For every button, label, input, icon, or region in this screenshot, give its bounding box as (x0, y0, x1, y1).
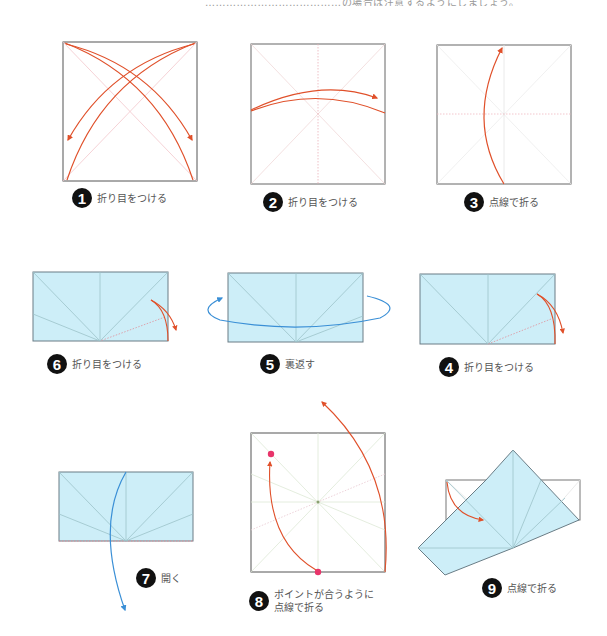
step-9-label: 9 点線で折る (482, 578, 557, 598)
step-2-label: 2 折り目をつける (263, 192, 358, 212)
step-caption: 折り目をつける (288, 196, 358, 209)
step-caption-line2: 点線で折る (274, 601, 374, 614)
step-badge: 4 (439, 357, 459, 377)
step-badge: 8 (249, 591, 269, 611)
step-8-diagram (251, 402, 386, 575)
step-9-diagram (418, 450, 580, 575)
step-caption: 折り目をつける (72, 358, 142, 371)
step-badge: 3 (464, 192, 484, 212)
step-5-label: 5 裏返す (260, 354, 315, 374)
step-5-diagram (208, 273, 390, 342)
origami-diagram (0, 0, 607, 636)
step-1-label: 1 折り目をつける (72, 188, 167, 208)
step-caption: 開く (161, 572, 181, 585)
step-badge: 1 (72, 188, 92, 208)
step-3-diagram (437, 45, 571, 184)
step-3-label: 3 点線で折る (464, 192, 539, 212)
step-caption-line1: ポイントが合うように (274, 588, 374, 601)
step-badge: 6 (47, 354, 67, 374)
step-6-label: 6 折り目をつける (47, 354, 142, 374)
step-7-diagram (59, 472, 193, 610)
step-8-label: 8 ポイントが合うように 点線で折る (249, 588, 374, 614)
step-caption: 裏返す (285, 358, 315, 371)
step-6-diagram (33, 272, 176, 341)
step-2-diagram (251, 44, 385, 184)
step-4-label: 4 折り目をつける (439, 357, 534, 377)
step-caption: 点線で折る (489, 196, 539, 209)
step-caption: ポイントが合うように 点線で折る (274, 588, 374, 614)
step-badge: 2 (263, 192, 283, 212)
step-7-label: 7 開く (136, 568, 181, 588)
step-badge: 9 (482, 578, 502, 598)
step-caption: 点線で折る (507, 582, 557, 595)
step-badge: 7 (136, 568, 156, 588)
step-caption: 折り目をつける (97, 192, 167, 205)
step-caption: 折り目をつける (464, 361, 534, 374)
step-1-diagram (63, 42, 197, 181)
step-badge: 5 (260, 354, 280, 374)
step-4-diagram (420, 274, 563, 344)
